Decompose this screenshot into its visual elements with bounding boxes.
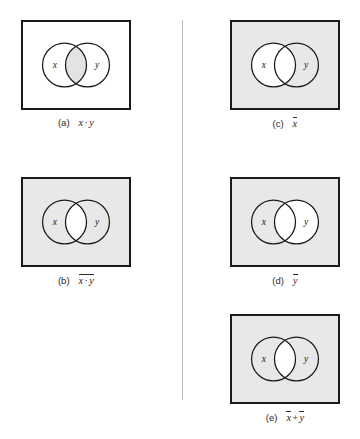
circle-label-y-e: y [303, 353, 309, 364]
figure-expression-e: x+y [286, 412, 304, 423]
circle-label-x-b: x [52, 216, 58, 227]
venn-svg-a: x y [23, 22, 129, 108]
column-divider [182, 20, 183, 400]
figure-tag-a: (a) [58, 117, 70, 128]
caption-d: (d)y [230, 274, 340, 286]
caption-e: (e)x+y [230, 411, 340, 423]
overbar-x-c: x [293, 117, 298, 129]
venn-svg-d: x y [232, 179, 338, 265]
figure-e: x y (e)x+y [230, 314, 340, 423]
circle-label-y-b: y [94, 216, 100, 227]
figure-c: x y (c)x [230, 20, 340, 129]
circle-label-x-c: x [261, 59, 267, 70]
caption-a: (a)x·y [21, 117, 131, 128]
overbar-y-d: y [293, 274, 298, 286]
venn-box-e: x y [230, 314, 340, 404]
figure-d: x y (d)y [230, 177, 340, 286]
circle-label-x-e: x [261, 353, 267, 364]
expr-operand-left-c: x [293, 118, 298, 129]
expr-operand-left-e: x [286, 412, 291, 423]
expr-operator-a: · [84, 117, 88, 128]
expr-operator-e: + [292, 412, 298, 423]
venn-svg-e: x y [232, 316, 338, 402]
figure-tag-d: (d) [272, 275, 284, 286]
circle-label-y-d: y [303, 216, 309, 227]
expr-operand-left-a: x [79, 117, 84, 128]
expr-operand-right-b: y [89, 275, 94, 286]
expr-operand-right-a: y [89, 117, 94, 128]
venn-svg-c: x y [232, 22, 338, 108]
overbar-x-e: x [286, 411, 291, 423]
figure-expression-d: y [293, 275, 298, 286]
expr-operand-left-d: y [293, 275, 298, 286]
figure-expression-c: x [293, 118, 298, 129]
expr-operator-b: · [84, 275, 88, 286]
circle-label-x-a: x [52, 59, 58, 70]
figure-expression-b: x·y [79, 275, 94, 286]
venn-box-c: x y [230, 20, 340, 110]
figure-tag-e: (e) [266, 412, 278, 423]
overbar-y-e: y [299, 411, 304, 423]
circle-label-y-a: y [94, 59, 100, 70]
venn-box-b: x y [21, 177, 131, 267]
venn-svg-b: x y [23, 179, 129, 265]
circle-label-y-c: y [303, 59, 309, 70]
figure-b: x y (b)x·y [21, 177, 131, 286]
overbar-full-b: x·y [79, 274, 94, 286]
caption-b: (b)x·y [21, 274, 131, 286]
figure-a: x y (a)x·y [21, 20, 131, 128]
figure-expression-a: x·y [79, 117, 94, 128]
caption-c: (c)x [230, 117, 340, 129]
expr-operand-right-e: y [299, 412, 304, 423]
venn-box-d: x y [230, 177, 340, 267]
venn-box-a: x y [21, 20, 131, 110]
figure-tag-b: (b) [58, 275, 70, 286]
figure-tag-c: (c) [273, 118, 284, 129]
expr-operand-left-b: x [79, 275, 84, 286]
circle-label-x-d: x [261, 216, 267, 227]
